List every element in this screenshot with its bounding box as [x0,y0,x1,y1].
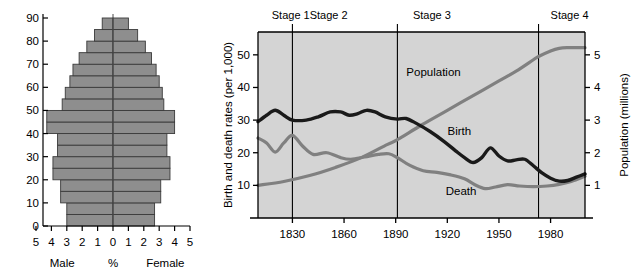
dtm-stage-label: Stage 3 [413,9,451,21]
pyramid-bar-male [79,53,113,65]
pyramid-x-tick-label: 3 [156,236,162,248]
pyramid-bar-male [62,99,113,111]
pyramid-x-tick-label: 2 [79,236,85,248]
dtm-x-ticks: 183018601890192019501980 [280,218,564,240]
dtm-right-tick-label: 1 [594,179,600,191]
dtm-x-tick-label: 1950 [486,228,512,240]
pyramid-bar-female [113,203,155,215]
pyramid-x-tick-label: 1 [125,236,131,248]
pyramid-y-tick-label: 20 [26,174,39,186]
pyramid-y-tick-label: 90 [26,12,39,24]
pyramid-y-tick-label: 60 [26,81,39,93]
pyramid-percent-label: % [108,257,118,269]
pyramid-bar-female [113,168,170,180]
pyramid-bar-female [113,99,164,111]
dtm-left-tick-label: 30 [237,114,250,126]
figure-pair-container: 010203040506070809054321012345Male%Femal… [0,0,640,271]
pyramid-x-axis: 54321012345 [33,226,193,248]
dtm-left-tick-label: 40 [237,81,250,93]
pyramid-bar-male [70,76,113,88]
pyramid-bar-female [113,110,175,122]
pyramid-y-tick-label: 50 [26,104,39,116]
dtm-stage-label: Stage 4 [551,9,589,21]
pyramid-y-tick-label: 70 [26,58,39,70]
pyramid-x-tick-label: 3 [64,236,70,248]
dtm-left-tick-label: 20 [237,147,250,159]
pyramid-bar-male [87,41,113,53]
pyramid-bar-male [67,214,113,226]
pyramid-y-tick-label: 30 [26,151,39,163]
dtm-x-tick-label: 1830 [280,228,306,240]
pyramid-bar-female [113,41,145,53]
pyramid-bar-female [113,87,162,99]
pyramid-bar-female [113,53,152,65]
dtm-right-tick-label: 3 [594,114,600,126]
pyramid-bar-male [58,145,113,157]
demographic-transition-svg: Stage 1Stage 2Stage 3Stage 4PopulationBi… [220,0,640,271]
pyramid-bar-female [113,214,155,226]
pyramid-bar-male [95,30,113,42]
pyramid-bar-female [113,30,138,42]
pyramid-female-label: Female [146,257,184,269]
population-pyramid-svg: 010203040506070809054321012345Male%Femal… [0,0,220,271]
pyramid-bar-female [113,18,128,30]
pyramid-bar-male [58,134,113,146]
pyramid-bar-male [47,122,113,134]
pyramid-bar-female [113,145,167,157]
pyramid-bar-female [113,122,175,134]
pyramid-x-tick-label: 5 [33,236,39,248]
pyramid-bars [47,18,175,226]
dtm-left-axis-title: Birth and death rates (per 1,000) [222,42,234,208]
dtm-stage-labels: Stage 1Stage 2Stage 3Stage 4 [272,9,589,21]
dtm-stage-label: Stage 2 [310,9,348,21]
dtm-x-tick-label: 1980 [538,228,564,240]
pyramid-y-tick-label: 80 [26,35,39,47]
pyramid-bar-male [65,87,113,99]
pyramid-x-tick-label: 4 [48,236,55,248]
pyramid-bar-male [67,203,113,215]
demographic-transition-figure: Stage 1Stage 2Stage 3Stage 4PopulationBi… [220,0,640,271]
dtm-right-tick-label: 5 [594,49,600,61]
pyramid-x-tick-label: 4 [171,236,178,248]
pyramid-bar-male [102,18,113,30]
pyramid-x-tick-label: 5 [187,236,193,248]
pyramid-y-axis: 0102030405060708090 [26,12,48,232]
pyramid-bar-female [113,157,170,169]
pyramid-bar-male [61,191,113,203]
pyramid-bar-female [113,64,156,76]
pyramid-male-label: Male [50,257,75,269]
dtm-death-label: Death [446,185,477,197]
pyramid-bar-male [47,110,113,122]
dtm-left-tick-label: 50 [237,49,250,61]
pyramid-bar-male [61,180,113,192]
dtm-right-axis-title: Population (millions) [618,73,630,177]
pyramid-bar-female [113,76,159,88]
dtm-x-tick-label: 1860 [331,228,357,240]
pyramid-bar-male [73,64,113,76]
population-pyramid-figure: 010203040506070809054321012345Male%Femal… [0,0,220,271]
pyramid-x-tick-label: 1 [94,236,100,248]
dtm-right-tick-label: 4 [594,81,601,93]
dtm-birth-label: Birth [448,125,472,137]
pyramid-bar-male [53,157,113,169]
pyramid-x-tick-label: 0 [110,236,116,248]
dtm-right-ticks: 12345 [585,49,601,192]
pyramid-bar-female [113,134,167,146]
dtm-right-tick-label: 2 [594,147,600,159]
dtm-x-tick-label: 1920 [435,228,461,240]
dtm-left-tick-label: 10 [237,179,250,191]
dtm-stage-label: Stage 1 [272,9,310,21]
pyramid-y-tick-label: 40 [26,128,39,140]
pyramid-bar-female [113,180,161,192]
dtm-population-label: Population [406,66,460,78]
dtm-x-tick-label: 1890 [383,228,409,240]
pyramid-bar-male [53,168,113,180]
pyramid-bar-female [113,191,161,203]
pyramid-y-tick-label: 10 [26,197,39,209]
pyramid-x-tick-label: 2 [141,236,147,248]
dtm-left-ticks: 1020304050 [237,49,258,192]
